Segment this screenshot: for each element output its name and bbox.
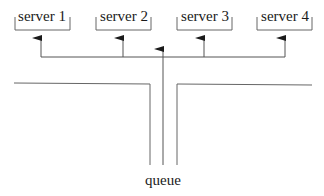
queue-channel-right-wall (177, 84, 312, 165)
queue-label: queue (133, 172, 193, 189)
diagram-canvas (0, 0, 324, 196)
server-label-2: server 2 (96, 8, 152, 25)
server-label-3: server 3 (177, 8, 233, 25)
server-label-1: server 1 (14, 8, 70, 25)
queueing-diagram: server 1 server 2 server 3 server 4 queu… (0, 0, 324, 196)
queue-channel-left-wall (14, 83, 150, 165)
server-label-4: server 4 (257, 8, 313, 25)
